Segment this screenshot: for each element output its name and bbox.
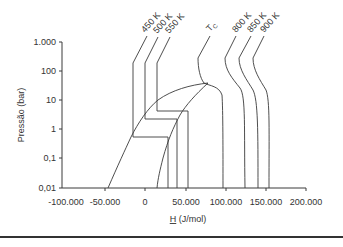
x-axis [62, 188, 306, 191]
x-tick-150000: 150.000 [250, 197, 283, 207]
y-tick-labels: 1.000 100 10 1 0,1 0,01 [33, 37, 56, 193]
x-axis-title: H (J/mol) [170, 214, 207, 224]
y-tick-1: 1 [51, 124, 56, 134]
y-axis [59, 42, 62, 188]
label-tc: TC [204, 19, 219, 34]
x-tick-200000: 200.000 [290, 197, 323, 207]
x-tick-labels: -100.000 -50.000 0 50.000 100.000 150.00… [48, 197, 322, 207]
y-tick-0-1: 0,1 [43, 153, 56, 163]
y-tick-1000: 1.000 [33, 37, 56, 47]
x-tick-100000: 100.000 [210, 197, 243, 207]
x-tick-m50000: -50.000 [90, 197, 121, 207]
isotherm-900k: 900 K [253, 10, 281, 188]
y-tick-0-01: 0,01 [38, 183, 56, 193]
y-tick-10: 10 [46, 95, 56, 105]
isotherm-800k: 800 K [225, 10, 253, 188]
isotherm-450k: 450 K [133, 10, 168, 188]
x-tick-50000: 50.000 [172, 197, 200, 207]
isotherm-550k: 550 K [157, 11, 188, 188]
isotherm-critical: TC [198, 19, 223, 188]
isotherm-500k: 500 K [145, 11, 177, 188]
x-tick-0: 0 [142, 197, 147, 207]
ph-diagram: 1.000 100 10 1 0,1 0,01 -100.000 -50.000… [0, 0, 343, 247]
saturated-liquid-curve [108, 83, 208, 188]
x-tick-m100000: -100.000 [48, 197, 84, 207]
y-tick-100: 100 [41, 66, 56, 76]
x-axis-title-unit: (J/mol) [176, 214, 206, 224]
y-axis-title: Pressão (bar) [16, 88, 26, 143]
bottom-rule [0, 236, 343, 238]
saturated-vapor-curve [157, 83, 208, 188]
